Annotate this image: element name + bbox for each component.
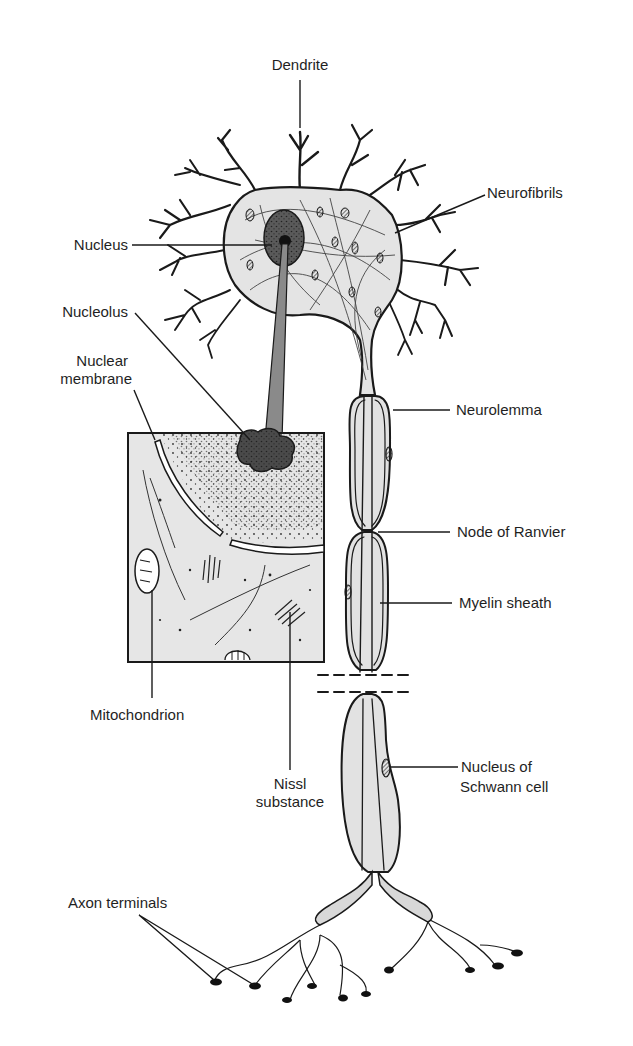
axon-terminals — [215, 920, 517, 1000]
label-node-of-ranvier: Node of Ranvier — [457, 523, 565, 541]
label-neurolemma: Neurolemma — [456, 401, 542, 419]
schwann-nucleus-2 — [345, 585, 351, 599]
label-dendrite: Dendrite — [258, 56, 342, 74]
label-nissl-line2: substance — [245, 793, 335, 811]
label-nuclear-membrane-line2: membrane — [20, 370, 132, 388]
magnified-inset — [128, 429, 324, 662]
myelin-segment-3 — [342, 694, 400, 872]
axon-break — [318, 675, 410, 692]
label-myelin-sheath: Myelin sheath — [459, 594, 552, 612]
label-neurofibrils: Neurofibrils — [487, 184, 563, 202]
label-nuclear-membrane-line1: Nuclear — [20, 352, 128, 370]
label-nucleolus: Nucleolus — [20, 303, 128, 321]
schwann-nucleus-3 — [382, 759, 390, 777]
label-schwann-line1: Nucleus of — [461, 758, 532, 776]
label-schwann-line2: Schwann cell — [460, 778, 548, 796]
schwann-nucleus-1 — [386, 447, 392, 461]
synaptic-boutons — [210, 950, 523, 1004]
label-nissl-line1: Nissl — [245, 775, 335, 793]
label-mitochondrion: Mitochondrion — [90, 706, 184, 724]
neuron-diagram: Dendrite Neurofibrils Nucleus Nucleolus … — [0, 0, 633, 1046]
axon — [315, 396, 432, 925]
label-axon-terminals: Axon terminals — [68, 894, 167, 912]
label-nucleus: Nucleus — [40, 236, 128, 254]
